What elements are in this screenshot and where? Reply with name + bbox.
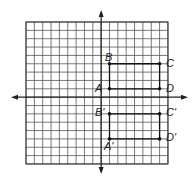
label-B-prime: B' bbox=[95, 107, 104, 118]
label-B: B bbox=[105, 52, 112, 63]
label-A: A bbox=[95, 83, 102, 94]
point-D-prime bbox=[158, 137, 162, 141]
point-A bbox=[108, 87, 112, 91]
point-D bbox=[158, 87, 162, 91]
label-C-prime: C' bbox=[166, 107, 176, 118]
arrow-up-icon bbox=[99, 10, 104, 17]
arrow-right-icon bbox=[181, 95, 188, 100]
point-C bbox=[158, 62, 162, 66]
arrow-left-icon bbox=[11, 95, 18, 100]
label-D-prime: D' bbox=[166, 132, 176, 143]
arrow-down-icon bbox=[99, 167, 104, 174]
point-B-prime bbox=[108, 112, 112, 116]
coordinate-plane-figure: B C A D B' C' D' A' bbox=[0, 0, 196, 184]
label-A-prime: A' bbox=[104, 141, 113, 152]
label-D: D bbox=[166, 83, 174, 94]
point-C-prime bbox=[158, 112, 162, 116]
label-C: C bbox=[166, 58, 174, 69]
